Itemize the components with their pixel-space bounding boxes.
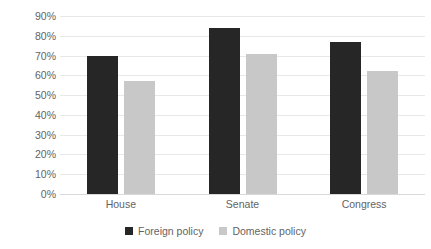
y-axis-tick-label: 70% bbox=[4, 50, 56, 61]
y-axis-tick-label: 80% bbox=[4, 31, 56, 42]
y-axis-tick-label: 30% bbox=[4, 129, 56, 140]
chart-legend: Foreign policyDomestic policy bbox=[0, 226, 431, 237]
legend-swatch-icon-foreign bbox=[125, 227, 133, 235]
plot-area bbox=[60, 16, 425, 194]
legend-label: Foreign policy bbox=[138, 226, 203, 237]
y-axis-tick-label: 10% bbox=[4, 169, 56, 180]
bar-congress-domestic bbox=[367, 71, 398, 194]
x-axis-tick-label-senate: Senate bbox=[226, 197, 259, 212]
x-axis: HouseSenateCongress bbox=[60, 197, 425, 217]
legend-label: Domestic policy bbox=[232, 226, 306, 237]
x-axis-tick-label-house: House bbox=[106, 197, 136, 212]
gridline-0% bbox=[60, 194, 425, 195]
y-axis: 90%80%70%60%50%40%30%20%10%0% bbox=[0, 16, 56, 194]
y-axis-tick-label: 0% bbox=[4, 189, 56, 200]
bar-senate-domestic bbox=[246, 54, 277, 194]
bar-group-house bbox=[87, 16, 155, 194]
y-axis-tick-label: 60% bbox=[4, 70, 56, 81]
bar-house-foreign bbox=[87, 56, 118, 194]
bar-house-domestic bbox=[124, 81, 155, 194]
y-axis-tick-label: 40% bbox=[4, 110, 56, 121]
y-axis-tick-label: 50% bbox=[4, 90, 56, 101]
bar-group-senate bbox=[209, 16, 277, 194]
legend-item-domestic[interactable]: Domestic policy bbox=[219, 226, 306, 237]
bar-congress-foreign bbox=[330, 42, 361, 194]
bar-chart: 90%80%70%60%50%40%30%20%10%0% HouseSenat… bbox=[0, 0, 431, 249]
y-axis-tick-label: 90% bbox=[4, 11, 56, 22]
bar-group-congress bbox=[330, 16, 398, 194]
legend-item-foreign[interactable]: Foreign policy bbox=[125, 226, 203, 237]
legend-swatch-icon-domestic bbox=[219, 227, 227, 235]
bar-senate-foreign bbox=[209, 28, 240, 194]
y-axis-tick-label: 20% bbox=[4, 149, 56, 160]
x-axis-tick-label-congress: Congress bbox=[342, 197, 387, 212]
